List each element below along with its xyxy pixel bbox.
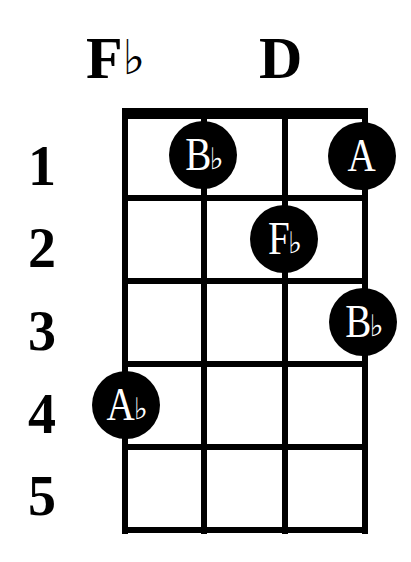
fret-line-5 <box>122 527 368 533</box>
note-dot-string4-fret1: A <box>328 122 396 190</box>
fret-number-2: 2 <box>20 220 64 276</box>
flat-icon: ♭ <box>369 311 383 341</box>
note-letter: A <box>107 382 135 428</box>
note-dot-string3-fret2: F♭ <box>250 205 318 273</box>
chord-label-right-letter: D <box>259 25 300 91</box>
fret-line-4 <box>122 444 368 450</box>
nut-bar <box>122 108 368 119</box>
fret-line-2 <box>122 278 368 284</box>
flat-icon: ♭ <box>134 394 148 424</box>
note-dot-string4-fret3: B♭ <box>329 288 397 356</box>
string-line-3 <box>282 108 288 534</box>
flat-icon: ♭ <box>209 144 223 174</box>
chord-label-right: D <box>259 28 300 88</box>
chord-label-left: F♭ <box>86 28 145 88</box>
chord-label-left-letter: F <box>86 25 121 91</box>
flat-icon: ♭ <box>123 29 146 85</box>
note-dot-string1-fret4: A♭ <box>92 371 160 439</box>
string-line-1 <box>122 108 128 534</box>
note-letter: A <box>348 133 376 179</box>
note-letter: F <box>268 216 290 262</box>
fret-line-3 <box>122 361 368 367</box>
note-letter: B <box>345 299 371 345</box>
note-letter: B <box>185 132 211 178</box>
note-dot-string2-fret1: B♭ <box>169 121 237 189</box>
fret-line-1 <box>122 195 368 201</box>
fret-number-3: 3 <box>20 303 64 359</box>
fret-number-5: 5 <box>20 468 64 524</box>
chord-diagram: F♭ D 1 2 3 4 5 B♭ A F♭ B♭ A♭ <box>0 0 411 562</box>
flat-icon: ♭ <box>288 228 302 258</box>
fret-number-1: 1 <box>20 138 64 194</box>
fret-number-4: 4 <box>20 386 64 442</box>
